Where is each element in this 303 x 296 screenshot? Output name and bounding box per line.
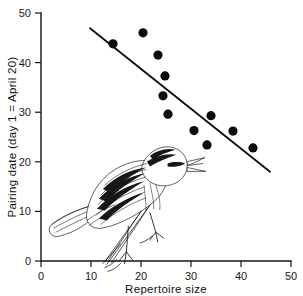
y-axis-title: Pairing date (day 1 = April 20) bbox=[6, 56, 18, 217]
y-axis-tick-labels: 50 40 30 20 10 0 bbox=[19, 7, 31, 267]
x-tick-label: 40 bbox=[235, 270, 247, 282]
bird-eye bbox=[172, 162, 176, 166]
x-tick-label: 20 bbox=[135, 270, 147, 282]
data-point bbox=[206, 111, 215, 120]
y-tick-label: 10 bbox=[19, 205, 31, 217]
data-point bbox=[163, 110, 172, 119]
figure-panel: 50 40 30 20 10 0 0 10 20 30 40 50 Repert… bbox=[0, 0, 303, 296]
data-point bbox=[138, 28, 147, 37]
sedge-warbler-illustration bbox=[49, 147, 206, 272]
data-points bbox=[108, 28, 257, 152]
y-tick-label: 0 bbox=[25, 255, 31, 267]
x-axis-ticks bbox=[41, 261, 291, 267]
x-axis-title: Repertoire size bbox=[125, 283, 207, 295]
x-tick-label: 30 bbox=[185, 270, 197, 282]
bird-beak bbox=[187, 158, 206, 172]
scatter-plot: 50 40 30 20 10 0 0 10 20 30 40 50 Repert… bbox=[0, 0, 303, 296]
data-point bbox=[189, 126, 198, 135]
x-tick-label: 0 bbox=[38, 270, 44, 282]
data-point bbox=[228, 127, 237, 136]
x-axis-tick-labels: 0 10 20 30 40 50 bbox=[38, 270, 297, 282]
y-axis-ticks bbox=[35, 13, 41, 261]
data-point bbox=[248, 143, 257, 152]
data-point bbox=[202, 140, 211, 149]
y-tick-label: 20 bbox=[19, 156, 31, 168]
x-tick-label: 50 bbox=[285, 270, 297, 282]
y-tick-label: 30 bbox=[19, 106, 31, 118]
y-tick-label: 50 bbox=[19, 7, 31, 19]
y-tick-label: 40 bbox=[19, 57, 31, 69]
data-point bbox=[160, 71, 169, 80]
regression-line bbox=[90, 28, 270, 172]
x-tick-label: 10 bbox=[85, 270, 97, 282]
data-point bbox=[108, 39, 117, 48]
data-point bbox=[153, 51, 162, 60]
data-point bbox=[158, 91, 167, 100]
